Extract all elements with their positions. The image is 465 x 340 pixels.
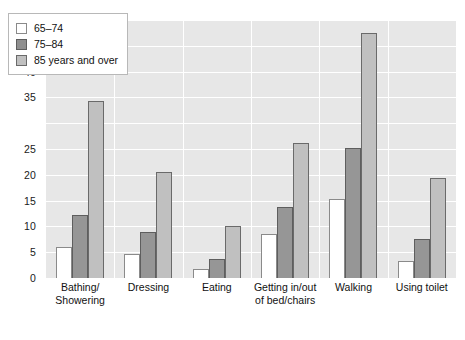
y-tick-label: 10	[24, 220, 36, 232]
y-tick-label: 35	[24, 91, 36, 103]
y-tick-label: 5	[30, 246, 36, 258]
bar-group	[388, 20, 456, 278]
x-axis: Bathing/ ShoweringDressingEatingGetting …	[46, 281, 456, 337]
bar	[277, 207, 293, 278]
legend-swatch-icon	[16, 39, 27, 50]
x-tick-label: Using toilet	[377, 281, 465, 294]
bar	[329, 199, 345, 278]
bar	[140, 232, 156, 278]
legend-label: 75–84	[34, 38, 63, 50]
bar	[414, 239, 430, 278]
bar	[124, 254, 140, 278]
bar	[209, 259, 225, 278]
legend-label: 85 years and over	[34, 54, 118, 66]
bar	[72, 215, 88, 278]
bar	[56, 247, 72, 278]
bar	[345, 148, 361, 278]
bar	[193, 269, 209, 278]
bar-group	[183, 20, 251, 278]
y-tick-label: 20	[24, 169, 36, 181]
y-tick-label: 15	[24, 195, 36, 207]
legend-swatch-icon	[16, 23, 27, 34]
bar	[430, 178, 446, 278]
bar	[398, 261, 414, 278]
bar-chart: 051015202535404550 Bathing/ ShoweringDre…	[0, 0, 465, 340]
bar	[293, 143, 309, 278]
legend: 65–7475–8485 years and over	[8, 13, 128, 75]
bar-group	[251, 20, 319, 278]
legend-item: 85 years and over	[16, 52, 118, 68]
legend-swatch-icon	[16, 55, 27, 66]
bar	[261, 234, 277, 278]
legend-label: 65–74	[34, 22, 63, 34]
bar-group	[319, 20, 387, 278]
bar	[156, 172, 172, 278]
y-tick-label: 25	[24, 143, 36, 155]
legend-item: 65–74	[16, 20, 118, 36]
bar	[225, 226, 241, 278]
bar	[88, 101, 104, 278]
legend-item: 75–84	[16, 36, 118, 52]
bar	[361, 33, 377, 278]
